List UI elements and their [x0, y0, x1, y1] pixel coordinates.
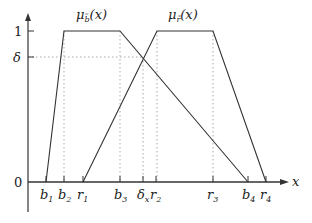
x-tick-label-dx: δx [137, 187, 150, 204]
x-tick-label-b4: b4 [242, 187, 255, 204]
x-axis-arrow-icon [280, 179, 289, 185]
x-axis-label: x [292, 174, 300, 189]
origin-label: 0 [14, 175, 22, 190]
x-tick-label-b1: b1 [40, 187, 53, 204]
x-tick-label-r3: r3 [207, 187, 218, 204]
y-tick-1: 1 [14, 24, 22, 39]
x-tick-label-r4: r4 [260, 187, 271, 204]
y-tick-delta: δ [13, 50, 21, 65]
x-ticks: b1b2r1b3δxr2r3b4r4 [40, 176, 271, 204]
mu-r-label: μr̃(x) [168, 7, 198, 24]
x-tick-label-r1: r1 [77, 187, 88, 204]
x-tick-label-b2: b2 [58, 187, 71, 204]
y-axis-arrow-icon [25, 13, 31, 21]
axes [28, 18, 283, 212]
mu-b-curve [46, 31, 248, 182]
mu-r-curve [83, 31, 266, 182]
x-tick-label-r2: r2 [150, 187, 161, 204]
x-tick-label-b3: b3 [114, 187, 127, 204]
mu-b-label: μb̃(x) [76, 7, 107, 24]
membership-diagram: 1 δ 0 x μb̃(x) μr̃(x) b1b2r1b3δxr2r3b4r4 [0, 0, 312, 223]
